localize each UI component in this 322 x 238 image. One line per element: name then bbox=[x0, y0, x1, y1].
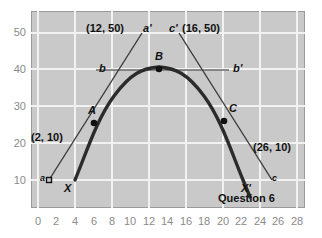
x-tick-4: 4 bbox=[66, 215, 84, 227]
gridlines-horizontal bbox=[31, 33, 305, 180]
annotation-b: b bbox=[99, 62, 106, 74]
x-tick-24: 24 bbox=[250, 215, 270, 227]
y-tick-10: 10 bbox=[0, 174, 26, 186]
annotation-b-prime: b' bbox=[233, 62, 242, 74]
x-tick-26: 26 bbox=[268, 215, 288, 227]
annotation-c: c bbox=[272, 173, 277, 183]
x-tick-8: 8 bbox=[103, 215, 121, 227]
x-tick-6: 6 bbox=[85, 215, 103, 227]
annotation-coord-16-50: (16, 50) bbox=[182, 22, 220, 34]
annotation-a-prime: a' bbox=[143, 22, 152, 34]
x-tick-12: 12 bbox=[139, 215, 159, 227]
annotation-a: a bbox=[40, 173, 45, 183]
annotation-coord-26-10: (26, 10) bbox=[253, 141, 291, 153]
point-C-marker bbox=[221, 118, 228, 125]
annotation-X: X bbox=[64, 182, 71, 194]
x-tick-20: 20 bbox=[213, 215, 233, 227]
y-tick-50: 50 bbox=[0, 26, 26, 38]
x-tick-2: 2 bbox=[47, 215, 65, 227]
annotation-coord-2-10: (2, 10) bbox=[31, 131, 63, 143]
x-tick-0: 0 bbox=[29, 215, 47, 227]
y-tick-30: 30 bbox=[0, 100, 26, 112]
point-a-marker bbox=[47, 178, 52, 183]
plot-canvas bbox=[31, 11, 305, 208]
question-label: Question 6 bbox=[218, 192, 275, 204]
x-tick-22: 22 bbox=[231, 215, 251, 227]
x-tick-14: 14 bbox=[157, 215, 177, 227]
annotation-point-A: A bbox=[88, 104, 96, 116]
chart-figure: 50 40 30 20 10 0 2 4 6 8 10 12 14 16 18 … bbox=[0, 0, 322, 238]
annotation-point-C: C bbox=[229, 102, 237, 114]
x-tick-18: 18 bbox=[194, 215, 214, 227]
point-B-marker bbox=[156, 66, 163, 73]
y-tick-40: 40 bbox=[0, 63, 26, 75]
annotation-coord-12-50: (12, 50) bbox=[86, 22, 124, 34]
annotation-point-B: B bbox=[155, 50, 163, 62]
y-tick-20: 20 bbox=[0, 137, 26, 149]
point-A-marker bbox=[91, 120, 98, 127]
x-tick-16: 16 bbox=[176, 215, 196, 227]
annotation-c-prime: c' bbox=[169, 22, 178, 34]
x-tick-10: 10 bbox=[120, 215, 140, 227]
x-tick-28: 28 bbox=[287, 215, 307, 227]
